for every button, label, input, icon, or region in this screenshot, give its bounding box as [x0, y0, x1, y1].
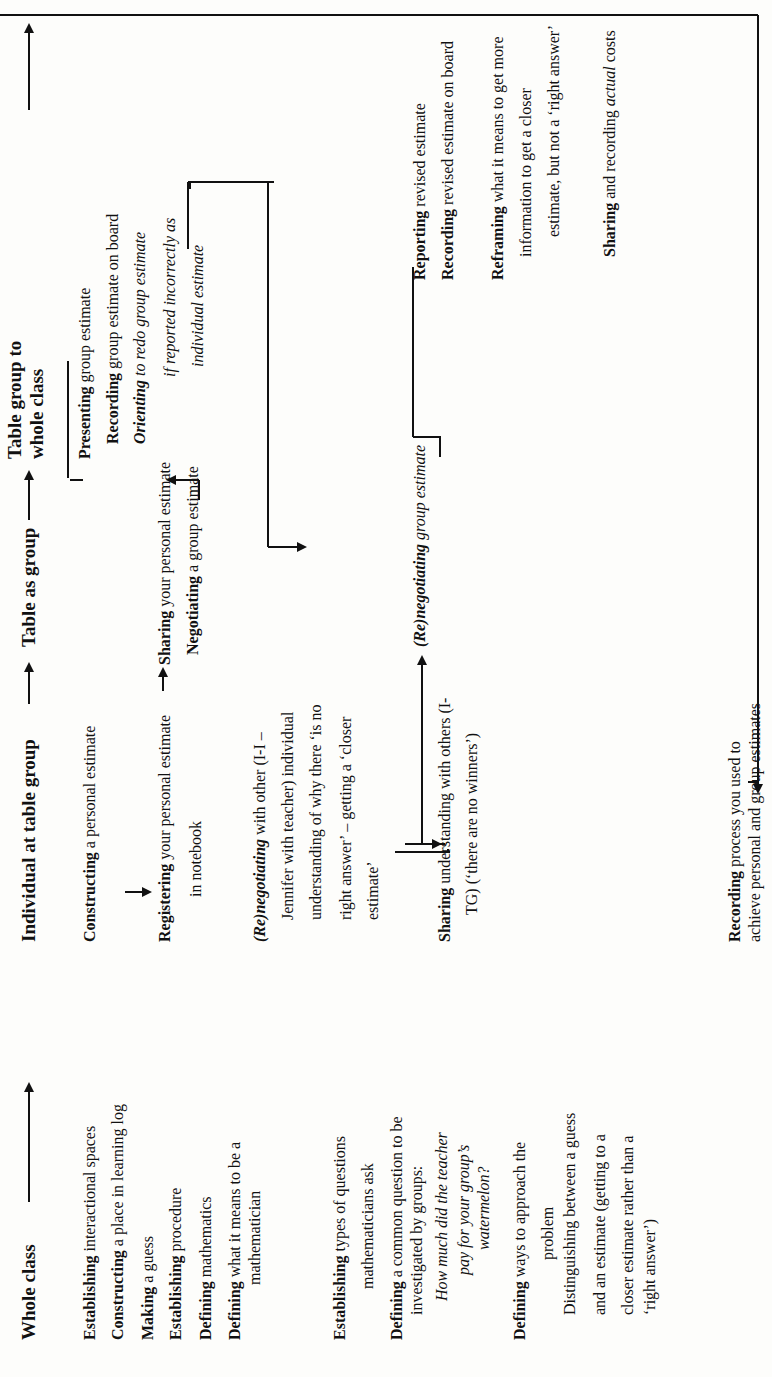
column-header-whole-class: Whole class [18, 1244, 40, 1340]
renegotiating-line: estimate’ [363, 861, 382, 920]
column-header-table-group: Table as group [18, 528, 40, 647]
individual-registering-cont: in notebook [186, 821, 205, 897]
whole-class-item: Establishing interactional spaces [80, 1126, 99, 1340]
whole-class-item-line: ‘right answer’) [640, 1219, 659, 1315]
individual-recording-cont: achieve personal and group estimates [745, 703, 764, 942]
whole-class-item: Constructing a place in learning log [108, 1104, 127, 1340]
diagram-canvas: Whole class Individual at table group Ta… [0, 0, 772, 1377]
common-question-line: How much did the teacher [432, 1132, 451, 1301]
column-header-individual: Individual at table group [18, 739, 40, 942]
individual-sharing: Sharing understanding with others (I- [435, 698, 454, 942]
renegotiating-line: understanding of why there ‘is no [306, 704, 325, 920]
individual-constructing: Constructing a personal estimate [80, 726, 99, 942]
orienting-line: individual estimate [188, 245, 207, 367]
whole-class-item-cont: mathematician [245, 1191, 264, 1285]
whole-class-item-cont: problem [538, 1207, 557, 1260]
common-question-line: pay for your group’s [454, 1145, 473, 1275]
reframing-line: information to get a closer [516, 88, 535, 257]
individual-registering: Registering your personal estimate [155, 715, 174, 942]
whole-class-item: Defining what it means to be a [225, 1142, 244, 1340]
whole-class-item: Making a guess [138, 1236, 157, 1340]
class-sharing-costs: Sharing and recording actual costs [600, 30, 619, 257]
class-recording: Recording group estimate on board [103, 214, 122, 444]
whole-class-item-cont: mathematicians ask [358, 1163, 377, 1289]
renegotiating-line: Jennifer with teacher) individual [278, 712, 297, 920]
individual-renegotiating: (Re)negotiating with other (I-I – [250, 732, 269, 942]
whole-class-item-line: closer estimate rather than a [618, 1136, 637, 1315]
table-sharing: Sharing your personal estimate [155, 462, 174, 665]
common-question-line: watermelon? [474, 1166, 493, 1250]
whole-class-item: Defining a common question to be [387, 1116, 406, 1340]
class-presenting: Presenting group estimate [75, 288, 94, 459]
whole-class-item-line: and an estimate (getting to a [590, 1134, 609, 1315]
reframing-line: estimate, but not a ‘right answer’ [544, 25, 563, 237]
column-header-table-to-class-line2: whole class [26, 369, 48, 459]
individual-sharing-cont: TG) (‘there are no winners’) [462, 733, 481, 915]
class-orienting: Orienting to redo group estimate [130, 232, 149, 444]
whole-class-item-cont: investigated by groups: [407, 1166, 426, 1315]
whole-class-item: Establishing procedure [166, 1188, 185, 1340]
whole-class-item-line: Distinguishing between a guess [560, 1113, 579, 1315]
whole-class-item: Establishing types of questions [330, 1136, 349, 1340]
table-renegotiating: (Re)negotiating group estimate [410, 445, 429, 647]
whole-class-item: Defining ways to approach the [510, 1142, 529, 1340]
whole-class-item: Defining mathematics [196, 1196, 215, 1340]
individual-recording: Recording process you used to [725, 741, 744, 942]
renegotiating-line: right answer’ – getting a ‘closer [336, 717, 355, 920]
class-recording-revised: Recording revised estimate on board [438, 41, 457, 280]
column-header-table-to-class-line1: Table group to [4, 341, 26, 459]
orienting-line: if reported incorrectly as [160, 218, 179, 377]
class-reporting: Reporting revised estimate [410, 103, 429, 280]
class-reframing: Reframing what it means to get more [488, 37, 507, 281]
table-negotiating: Negotiating a group estimate [183, 466, 202, 655]
